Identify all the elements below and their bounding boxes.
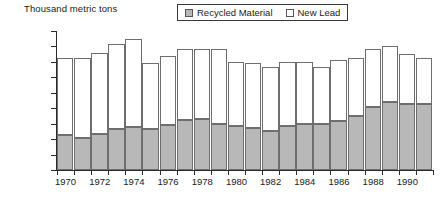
plot-area (57, 31, 433, 170)
bar-1977 (177, 31, 193, 170)
bar-segment-recycled (91, 134, 107, 170)
x-axis-tick-mark (348, 171, 349, 175)
x-axis-label: 1984 (294, 176, 315, 187)
bar-1988 (365, 31, 381, 170)
bar-1973 (108, 31, 124, 170)
bar-segment-recycled (262, 131, 278, 170)
bar-segment-new-lead (142, 63, 158, 129)
bar-1972 (91, 31, 107, 170)
x-axis-tick-mark (177, 171, 178, 175)
x-axis-tick-mark (382, 171, 383, 175)
bar-segment-new-lead (125, 39, 141, 127)
bar-segment-new-lead (160, 56, 176, 126)
bar-1991 (416, 31, 432, 170)
bar-1974 (125, 31, 141, 170)
bar-1980 (228, 31, 244, 170)
bar-segment-recycled (177, 120, 193, 170)
x-axis-label: 1980 (226, 176, 247, 187)
legend-item-recycled: Recycled Material (185, 7, 273, 18)
x-axis-tick-mark (245, 171, 246, 175)
bar-segment-new-lead (108, 44, 124, 129)
chart-legend: Recycled MaterialNew Lead (177, 4, 348, 21)
bar-1970 (57, 31, 73, 170)
bar-segment-new-lead (194, 49, 210, 119)
x-axis-label: 1990 (397, 176, 418, 187)
bar-segment-recycled (160, 125, 176, 170)
y-tick-mark (51, 46, 56, 47)
x-axis-tick-mark (313, 171, 314, 175)
bar-1976 (160, 31, 176, 170)
bar-segment-new-lead (296, 62, 312, 125)
bar-segment-new-lead (57, 58, 73, 135)
bar-segment-recycled (365, 107, 381, 170)
x-axis-label: 1976 (158, 176, 179, 187)
x-axis-label: 1978 (192, 176, 213, 187)
legend-swatch-icon-newlead (286, 9, 294, 17)
y-axis-caption: Thousand metric tons (24, 3, 117, 14)
bar-segment-recycled (296, 124, 312, 170)
legend-item-newlead: New Lead (286, 7, 341, 18)
bar-segment-recycled (313, 124, 329, 170)
bar-1981 (245, 31, 261, 170)
x-axis-tick-mark (228, 171, 229, 175)
y-tick-mark (51, 155, 56, 156)
y-tick-mark (51, 170, 56, 171)
bar-segment-recycled (416, 104, 432, 170)
x-axis-tick-mark (399, 171, 400, 175)
x-axis-tick-mark (57, 171, 58, 175)
y-tick-mark (51, 108, 56, 109)
bar-segment-new-lead (279, 62, 295, 126)
bar-segment-recycled (228, 126, 244, 170)
x-axis-tick-mark (279, 171, 280, 175)
x-axis-tick-mark (194, 171, 195, 175)
y-tick-mark (51, 31, 56, 32)
bar-segment-new-lead (245, 63, 261, 129)
y-tick-mark (51, 124, 56, 125)
bar-segment-recycled (125, 127, 141, 170)
legend-swatch-icon-recycled (185, 9, 193, 17)
bar-segment-new-lead (382, 46, 398, 102)
chart-figure: Thousand metric tons Recycled MaterialNe… (0, 0, 444, 199)
x-axis-tick-mark (330, 171, 331, 175)
bar-1978 (194, 31, 210, 170)
bar-segment-recycled (279, 126, 295, 170)
x-axis-label: 1982 (260, 176, 281, 187)
bar-1990 (399, 31, 415, 170)
x-axis-tick-mark (365, 171, 366, 175)
x-axis-tick-mark (125, 171, 126, 175)
bar-segment-recycled (194, 119, 210, 170)
x-axis-label: 1988 (363, 176, 384, 187)
bar-segment-recycled (399, 104, 415, 170)
bar-segment-new-lead (228, 62, 244, 126)
bar-segment-new-lead (365, 49, 381, 107)
bar-segment-recycled (142, 129, 158, 170)
bar-segment-recycled (108, 129, 124, 170)
bar-1984 (296, 31, 312, 170)
bar-segment-recycled (57, 135, 73, 170)
x-axis-tick-mark (296, 171, 297, 175)
x-axis-label: 1970 (55, 176, 76, 187)
bar-segment-new-lead (416, 58, 432, 104)
bar-segment-new-lead (313, 67, 329, 124)
bar-segment-recycled (245, 128, 261, 170)
bar-segment-new-lead (348, 58, 364, 116)
bar-1982 (262, 31, 278, 170)
bar-1985 (313, 31, 329, 170)
bar-segment-new-lead (74, 58, 90, 138)
y-tick-mark (51, 139, 56, 140)
bar-1989 (382, 31, 398, 170)
bar-segment-recycled (211, 124, 227, 170)
bar-segment-new-lead (330, 60, 346, 120)
y-tick-mark (51, 62, 56, 63)
bar-1979 (211, 31, 227, 170)
legend-label: Recycled Material (197, 7, 273, 18)
x-axis-tick-mark (433, 171, 434, 175)
x-axis-tick-mark (160, 171, 161, 175)
bar-segment-new-lead (177, 49, 193, 120)
x-axis-label: 1986 (328, 176, 349, 187)
bar-segment-new-lead (211, 49, 227, 125)
y-tick-mark (51, 93, 56, 94)
x-axis-tick-mark (142, 171, 143, 175)
bar-1983 (279, 31, 295, 170)
bar-1986 (330, 31, 346, 170)
